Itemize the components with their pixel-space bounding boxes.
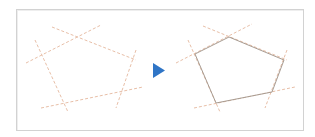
right-arrow-icon [153,63,165,78]
dashed-guide-line [35,40,68,112]
dashed-guide-line [116,50,136,108]
dashed-guide-line [41,87,143,108]
dashed-guide-line [203,26,287,60]
dashed-guide-line [52,27,136,60]
dashed-guide-line [26,25,101,63]
left-panel-dashed-lines [26,25,143,112]
dashed-guide-line [176,24,252,63]
diagram-canvas [0,0,315,137]
